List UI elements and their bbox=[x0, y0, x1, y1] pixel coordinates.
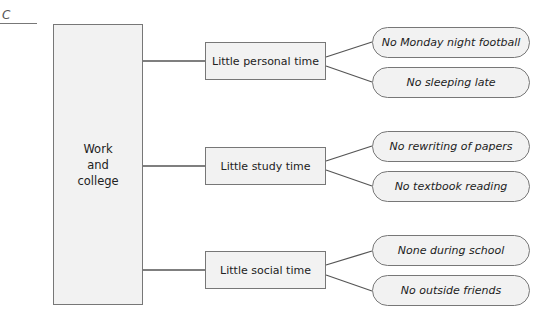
leaf-node: No outside friends bbox=[372, 275, 530, 306]
leaf-node: No sleeping late bbox=[372, 67, 530, 98]
root-node-work-and-college: Work and college bbox=[53, 24, 143, 305]
branch-node-social-time: Little social time bbox=[205, 251, 326, 289]
root-line: college bbox=[77, 173, 118, 189]
leaf-node: None during school bbox=[372, 235, 530, 266]
branch-node-study-time: Little study time bbox=[205, 147, 326, 185]
leaf-node: No textbook reading bbox=[372, 171, 530, 202]
leaf-node: No Monday night football bbox=[372, 27, 530, 58]
leaf-node: No rewriting of papers bbox=[372, 131, 530, 162]
branch-node-personal-time: Little personal time bbox=[205, 42, 326, 80]
root-line: and bbox=[77, 157, 118, 173]
root-line: Work bbox=[77, 141, 118, 157]
